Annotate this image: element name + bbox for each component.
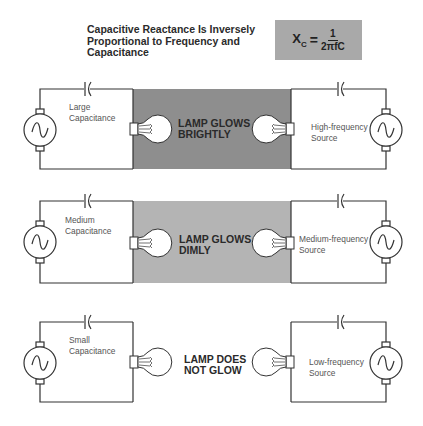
capacitance-label-line-2: Capacitance (69, 345, 115, 356)
capacitance-label-line-2: Capacitance (69, 112, 115, 123)
light-bulb-icon (252, 348, 294, 376)
source-label-line-1: Medium-frequency (299, 233, 368, 244)
source-label-line-2: Source (309, 367, 364, 378)
capacitive-reactance-diagram: Capacitive Reactance Is Inversely Propor… (0, 0, 423, 426)
capacitance-label-line-1: Medium (65, 214, 111, 225)
ac-generator-icon (24, 221, 56, 263)
capacitance-label-line-2: Capacitance (65, 225, 111, 236)
capacitance-label-medium: Medium Capacitance (65, 214, 111, 236)
row-1-left-circuit (24, 82, 172, 169)
source-label-high: High-frequency Source (311, 121, 368, 143)
light-bulb-icon (252, 229, 294, 257)
ac-generator-icon (24, 109, 56, 151)
lamp-status-off: LAMP DOES NOT GLOW (184, 354, 246, 376)
ac-generator-icon (24, 342, 56, 384)
lamp-status-line-2: DIMLY (179, 245, 251, 256)
light-bulb-icon (130, 229, 172, 257)
light-bulb-icon (252, 115, 294, 143)
source-label-medium: Medium-frequency Source (299, 233, 368, 255)
lamp-status-line-2: BRIGHTLY (178, 129, 250, 140)
source-label-line-1: High-frequency (311, 121, 368, 132)
ac-generator-icon (370, 109, 402, 151)
source-label-line-1: Low-frequency (309, 356, 364, 367)
row-3-left-circuit (24, 315, 172, 402)
light-bulb-icon (130, 348, 172, 376)
row-2-left-circuit (24, 194, 172, 283)
source-label-line-2: Source (311, 132, 368, 143)
light-bulb-icon (130, 115, 172, 143)
ac-generator-icon (370, 342, 402, 384)
source-label-low: Low-frequency Source (309, 356, 364, 378)
source-label-line-2: Source (299, 244, 368, 255)
lamp-status-bright: LAMP GLOWS BRIGHTLY (178, 118, 250, 140)
lamp-status-line-2: NOT GLOW (184, 365, 246, 376)
capacitance-label-line-1: Small (69, 334, 115, 345)
capacitance-label-line-1: Large (69, 101, 115, 112)
capacitance-label-large: Large Capacitance (69, 101, 115, 123)
lamp-status-dim: LAMP GLOWS DIMLY (179, 234, 251, 256)
capacitance-label-small: Small Capacitance (69, 334, 115, 356)
ac-generator-icon (370, 221, 402, 263)
